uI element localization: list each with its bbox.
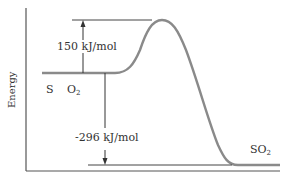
activation-energy-label: 150 kJ/mol <box>56 40 118 53</box>
y-axis-label: Energy <box>6 72 17 109</box>
product-so2-base: SO <box>250 143 267 156</box>
reactant-o2-label: O2 <box>67 83 81 97</box>
energy-diagram-svg <box>0 0 284 178</box>
reactant-o2-sub: 2 <box>76 89 80 97</box>
reactant-o2-base: O <box>67 83 76 96</box>
reactant-s-label: S <box>46 83 54 96</box>
activation-arrowhead-icon <box>81 20 86 27</box>
product-so2-label: SO2 <box>250 143 271 157</box>
reaction-enthalpy-label: -296 kJ/mol <box>74 131 140 144</box>
reactant-s-text: S <box>46 83 54 96</box>
energy-diagram: Energy 150 kJ/mol -296 kJ/mol S O2 SO2 <box>0 0 284 178</box>
enthalpy-arrowhead-icon <box>103 158 108 165</box>
product-so2-sub: 2 <box>267 149 271 157</box>
